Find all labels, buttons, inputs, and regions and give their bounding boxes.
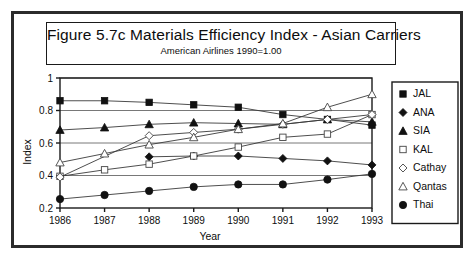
data-point (145, 187, 152, 194)
data-point (279, 181, 286, 188)
legend-item-label: ANA (413, 106, 435, 118)
y-tick-label: 1 (47, 73, 53, 84)
filled-square-icon (400, 91, 406, 97)
x-tick-label: 1993 (361, 215, 384, 226)
data-point (145, 132, 153, 140)
legend-item-label: Qantas (413, 180, 447, 192)
data-point (323, 157, 331, 165)
x-tick-label: 1989 (183, 215, 206, 226)
plot-wrapper: 0.20.40.60.81 19861987198819891990199119… (14, 68, 466, 248)
data-point (323, 103, 331, 111)
data-point (101, 167, 107, 173)
y-tick-labels: 0.20.40.60.81 (39, 73, 60, 214)
data-point (324, 131, 330, 137)
data-point (235, 144, 241, 150)
x-tick-labels: 19861987198819891990199119921993 (49, 208, 384, 226)
data-point (279, 154, 287, 162)
data-point (368, 170, 375, 177)
data-point (191, 102, 197, 108)
title-box: Figure 5.7c Materials Efficiency Index -… (46, 22, 396, 65)
x-tick-label: 1986 (49, 215, 72, 226)
x-tick-label: 1991 (272, 215, 295, 226)
x-tick-label: 1987 (93, 215, 116, 226)
data-point (234, 152, 242, 160)
y-tick-label: 0.8 (39, 105, 53, 116)
data-point (235, 181, 242, 188)
data-point (190, 183, 197, 190)
data-point (280, 134, 286, 140)
x-tick-label: 1988 (138, 215, 161, 226)
series-thai (56, 170, 375, 203)
filled-circle-icon (399, 201, 406, 208)
legend-item-label: SIA (413, 124, 430, 136)
series-ana (145, 152, 376, 169)
open-square-icon (400, 146, 406, 152)
x-tick-label: 1990 (227, 215, 250, 226)
data-point (368, 161, 376, 169)
y-tick-label: 0.2 (39, 203, 53, 214)
y-tick-label: 0.4 (39, 170, 53, 181)
chart-subtitle: American Airlines 1990=1.00 (47, 44, 395, 56)
legend-item-label: KAL (413, 143, 433, 155)
y-tick-label: 0.6 (39, 138, 53, 149)
data-point (101, 98, 107, 104)
data-point (145, 153, 153, 161)
data-point (235, 104, 241, 110)
data-point (56, 195, 63, 202)
data-point (146, 161, 152, 167)
data-point (146, 99, 152, 105)
chart-legend: JALANASIAKALCathayQantasThai (392, 82, 458, 224)
figure-inner-area: Figure 5.7c Materials Efficiency Index -… (14, 14, 460, 245)
series-line (149, 156, 372, 165)
legend-item-label: JAL (413, 87, 431, 99)
x-axis-title: Year (199, 230, 221, 242)
data-point (101, 191, 108, 198)
line-chart-canvas: 0.20.40.60.81 19861987198819891990199119… (14, 68, 466, 248)
page-title: Figure 5.7c Materials Efficiency Index -… (47, 23, 395, 44)
data-point (57, 98, 63, 104)
legend-item-label: Cathay (413, 161, 447, 173)
data-point (368, 90, 376, 98)
legend-item-label: Thai (413, 198, 433, 210)
y-axis-title: Index (21, 138, 33, 164)
data-point (191, 153, 197, 159)
x-tick-label: 1992 (316, 215, 339, 226)
data-point (324, 176, 331, 183)
figure-root: Figure 5.7c Materials Efficiency Index -… (0, 0, 474, 259)
figure-outer-frame: Figure 5.7c Materials Efficiency Index -… (11, 11, 463, 248)
data-series-group (56, 90, 376, 203)
data-point (280, 111, 286, 117)
